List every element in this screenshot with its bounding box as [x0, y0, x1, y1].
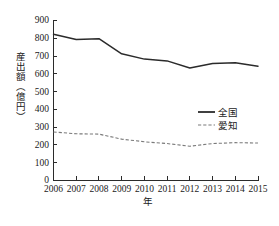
x-axis-tick-marks: [54, 176, 259, 181]
x-tick-label: 2014: [226, 184, 245, 194]
y-tick-label: 500: [35, 87, 50, 97]
x-tick-label: 2015: [249, 184, 268, 194]
y-tick-label: 800: [35, 33, 50, 43]
x-tick-label: 2009: [112, 184, 131, 194]
y-tick-label: 700: [35, 51, 50, 61]
x-tick-label: 2010: [135, 184, 154, 194]
y-tick-label: 600: [35, 69, 50, 79]
legend-label: 愛知: [218, 120, 238, 131]
x-tick-label: 2013: [203, 184, 222, 194]
x-tick-label: 2007: [67, 184, 86, 194]
chart-legend: 全国愛知: [198, 107, 238, 131]
x-tick-label: 2008: [89, 184, 108, 194]
y-tick-label: 200: [35, 140, 50, 150]
x-tick-label: 2011: [158, 184, 177, 194]
legend-label: 全国: [218, 107, 238, 118]
y-axis-tick-marks: [54, 21, 58, 181]
y-tick-label: 300: [35, 122, 50, 132]
y-axis-tick-labels: 0100200300400500600700800900: [35, 15, 50, 185]
x-tick-label: 2012: [180, 184, 199, 194]
chart-canvas: 0100200300400500600700800900 20062007200…: [0, 0, 279, 226]
series-line-aichi: [54, 132, 259, 146]
y-tick-label: 100: [35, 158, 50, 168]
x-tick-label: 2006: [44, 184, 63, 194]
line-chart-figure: 産出額（億円） 0100200300400500600700800900 200…: [0, 0, 279, 226]
x-axis-title: 年: [143, 196, 153, 207]
x-axis-tick-labels: 2006200720082009201020112012201320142015: [44, 184, 268, 194]
y-tick-label: 400: [35, 104, 50, 114]
series-line-zenkoku: [54, 34, 259, 68]
y-tick-label: 900: [35, 15, 50, 25]
